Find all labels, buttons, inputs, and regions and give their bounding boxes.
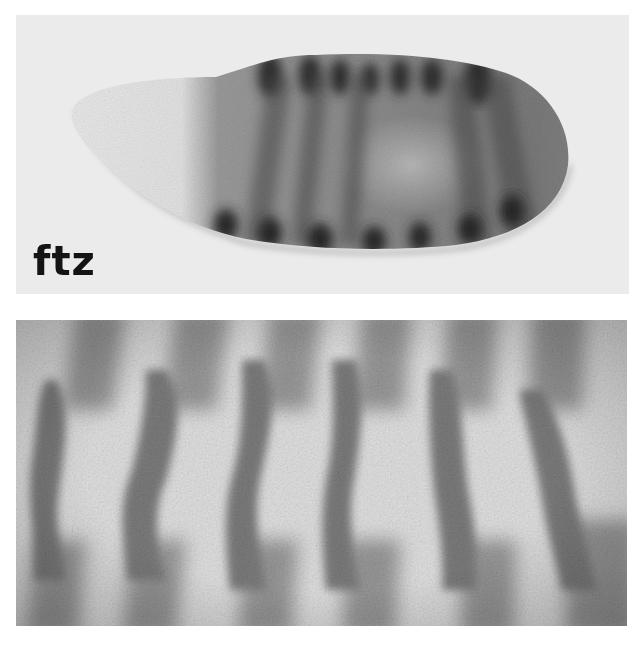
gene-label: ftz: [33, 241, 96, 281]
embryo-panel-top: ftz: [16, 15, 629, 294]
stripe-closeup-image: [16, 320, 627, 626]
stripe-closeup-panel: [16, 320, 627, 626]
embryo-image: [16, 15, 629, 294]
